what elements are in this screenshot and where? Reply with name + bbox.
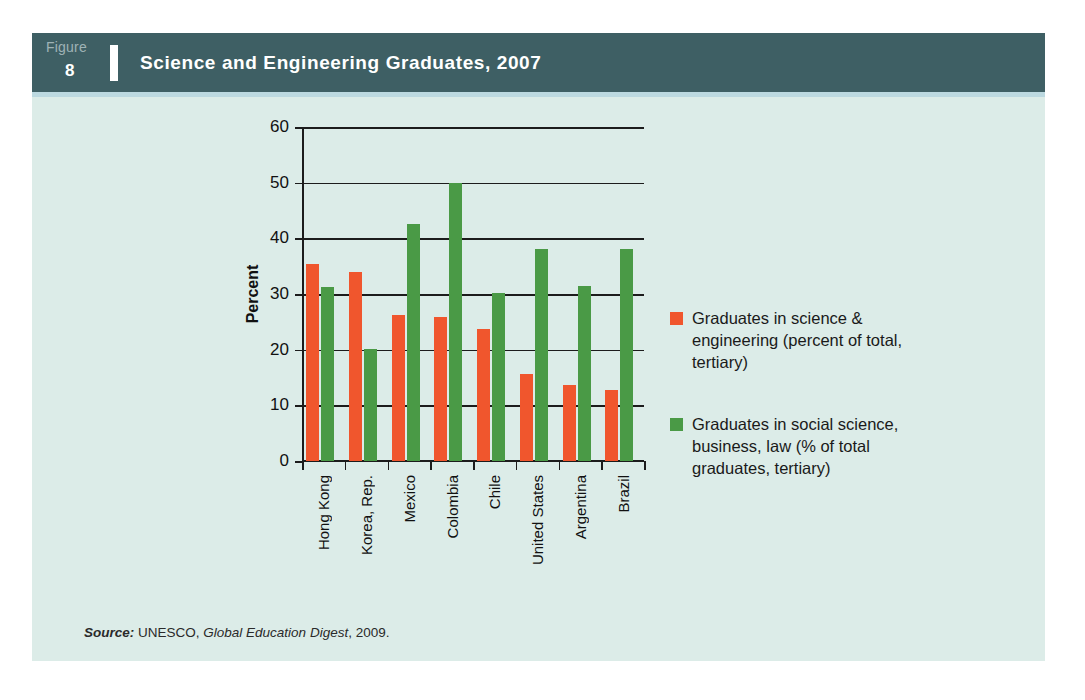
legend-entry: Graduates in science & engineering (perc…: [670, 308, 930, 374]
figure-number: 8: [65, 61, 74, 81]
x-tick-label: Mexico: [401, 475, 418, 523]
chart-legend: Graduates in science & engineering (perc…: [670, 308, 930, 520]
figure-header: Figure 8 Science and Engineering Graduat…: [32, 33, 1045, 92]
x-tick-label: Brazil: [615, 475, 632, 513]
bar-group: [473, 127, 516, 461]
bar-group: [302, 127, 345, 461]
y-tick-label: 0: [280, 451, 289, 471]
x-tick-label: Hong Kong: [315, 475, 332, 550]
y-axis-label: Percent: [244, 265, 262, 324]
bar-group: [516, 127, 559, 461]
y-tick-label: 40: [270, 228, 289, 248]
x-tick-mark: [473, 461, 475, 470]
x-tick-mark: [559, 461, 561, 470]
bar: [392, 315, 405, 461]
bar: [449, 183, 462, 461]
y-tick-label: 60: [270, 117, 289, 137]
bar-group: [388, 127, 431, 461]
source-prefix: Source:: [84, 625, 134, 640]
x-tick-mark: [345, 461, 347, 470]
bar: [407, 224, 420, 461]
bar-group: [430, 127, 473, 461]
x-tick-mark: [601, 461, 603, 470]
x-tick-label: Colombia: [444, 475, 461, 538]
source-publication: Global Education Digest: [203, 625, 348, 640]
bar: [578, 286, 591, 461]
y-tick-label: 20: [270, 340, 289, 360]
legend-swatch: [670, 418, 683, 431]
y-tick-label: 30: [270, 284, 289, 304]
bar-group: [345, 127, 388, 461]
legend-label: Graduates in social science, business, l…: [692, 414, 930, 480]
bar-group: [601, 127, 644, 461]
bars-layer: [302, 127, 644, 461]
legend-swatch: [670, 312, 683, 325]
x-tick-label: Argentina: [572, 475, 589, 539]
legend-label: Graduates in science & engineering (perc…: [692, 308, 930, 374]
bar: [477, 329, 490, 461]
plot-area: Percent 0102030405060 Hong KongKorea, Re…: [302, 127, 644, 461]
chart-area: Percent 0102030405060 Hong KongKorea, Re…: [32, 92, 1045, 661]
figure-panel: Figure 8 Science and Engineering Graduat…: [32, 33, 1045, 661]
figure-label-word: Figure: [46, 39, 87, 55]
x-tick-mark: [302, 461, 304, 470]
y-tick-label: 50: [270, 173, 289, 193]
x-tick-label: United States: [529, 475, 546, 565]
bar: [364, 349, 377, 461]
source-note: Source: UNESCO, Global Education Digest,…: [84, 625, 389, 640]
x-tick-mark: [516, 461, 518, 470]
figure-number-box: Figure 8: [32, 33, 110, 92]
bar: [306, 264, 319, 461]
bar: [620, 249, 633, 461]
x-tick-mark: [430, 461, 432, 470]
bar: [520, 374, 533, 461]
bar: [605, 390, 618, 461]
y-tick-label: 10: [270, 395, 289, 415]
bar: [321, 287, 334, 461]
bar: [492, 293, 505, 461]
source-year: , 2009.: [348, 625, 389, 640]
source-publisher: UNESCO,: [138, 625, 200, 640]
x-tick-mark: [388, 461, 390, 470]
bar: [349, 272, 362, 461]
x-tick-mark: [644, 461, 646, 470]
bar: [434, 317, 447, 461]
x-tick-label: Korea, Rep.: [358, 475, 375, 555]
page-title: Science and Engineering Graduates, 2007: [140, 52, 541, 74]
header-divider: [110, 45, 118, 81]
bar: [563, 385, 576, 461]
bar-group: [559, 127, 602, 461]
x-tick-label: Chile: [486, 475, 503, 509]
bar: [535, 249, 548, 461]
legend-entry: Graduates in social science, business, l…: [670, 414, 930, 480]
